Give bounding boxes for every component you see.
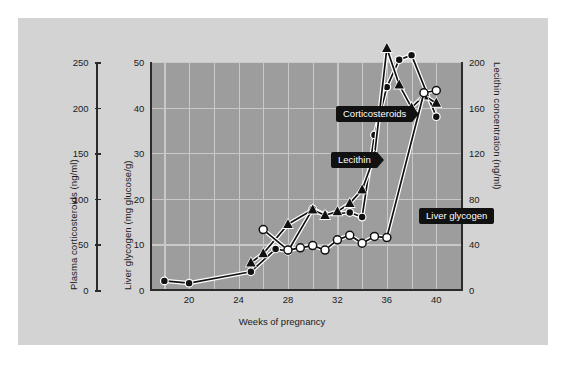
axis-tick-label-liver-glycogen: 40 <box>134 102 145 113</box>
axis-tick-label-corticosteroids: 50 <box>78 239 89 250</box>
axis-tick <box>95 290 101 292</box>
axis-tick-label-lecithin: 200 <box>469 57 485 68</box>
axis-tick-label-weeks: 40 <box>431 294 442 305</box>
axis-tick <box>95 153 101 155</box>
gridline-vertical <box>387 62 388 290</box>
axis-title-weeks-of-pregnancy: Weeks of pregnancy <box>0 316 564 327</box>
axis-tick <box>95 199 101 201</box>
axis-tick-label-weeks: 28 <box>283 294 294 305</box>
axis-lecithin-concentration: 04080120160200 <box>461 62 463 291</box>
gridline-vertical <box>214 62 215 290</box>
axis-tick-label-liver-glycogen: 0 <box>139 285 144 296</box>
gridline-vertical <box>412 62 413 290</box>
gridline-horizontal <box>152 199 461 200</box>
axis-tick-label-corticosteroids: 250 <box>73 57 89 68</box>
axis-tick-label-weeks: 32 <box>332 294 343 305</box>
gridline-vertical <box>362 62 363 290</box>
axis-tick-label-liver-glycogen: 10 <box>134 239 145 250</box>
axis-title-plasma-corticosteroids: Plasma corticosteroids (ng/ml) <box>68 159 79 290</box>
axis-tick-label-liver-glycogen: 50 <box>134 57 145 68</box>
callout-corticosteroids: Corticosteroids <box>336 106 413 122</box>
callout-lecithin: Lecithin <box>331 152 378 168</box>
plot-area <box>152 62 461 290</box>
axis-tick-label-lecithin: 120 <box>469 148 485 159</box>
gridline-vertical <box>189 62 190 290</box>
gridline-horizontal <box>152 153 461 154</box>
axis-title-lecithin-concentration: Lecithin concentration (ng/ml) <box>492 62 503 190</box>
axis-tick <box>95 244 101 246</box>
gridline-vertical <box>337 62 338 290</box>
axis-tick-label-lecithin: 160 <box>469 102 485 113</box>
axis-tick-label-lecithin: 80 <box>469 193 480 204</box>
gridline-horizontal <box>152 244 461 245</box>
gridline-vertical <box>436 62 437 290</box>
gridline-vertical <box>239 62 240 290</box>
axis-title-liver-glycogen: Liver glycogen (mg glucose/g) <box>122 160 133 290</box>
gridline-vertical <box>164 62 165 290</box>
axis-tick <box>95 62 101 64</box>
axis-tick-label-liver-glycogen: 20 <box>134 193 145 204</box>
axis-tick-label-lecithin: 40 <box>469 239 480 250</box>
axis-tick <box>95 108 101 110</box>
gridline-horizontal <box>152 62 461 63</box>
axis-tick-label-liver-glycogen: 30 <box>134 148 145 159</box>
gridline-vertical <box>288 62 289 290</box>
gridline-vertical <box>313 62 314 290</box>
axis-tick-label-weeks: 36 <box>382 294 393 305</box>
axis-tick-label-weeks: 24 <box>233 294 244 305</box>
axis-tick-label-weeks: 20 <box>184 294 195 305</box>
axis-x-line <box>150 289 463 291</box>
figure-root: 050100150200250 Plasma corticosteroids (… <box>0 0 564 370</box>
axis-tick-label-lecithin: 0 <box>469 285 474 296</box>
axis-tick-label-corticosteroids: 0 <box>83 285 88 296</box>
axis-plasma-corticosteroids: 050100150200250 <box>96 62 98 290</box>
callout-liver-glycogen: Liver glycogen <box>419 208 494 224</box>
gridline-vertical <box>263 62 264 290</box>
axis-tick-label-corticosteroids: 200 <box>73 102 89 113</box>
axis-tick-label-corticosteroids: 150 <box>73 148 89 159</box>
